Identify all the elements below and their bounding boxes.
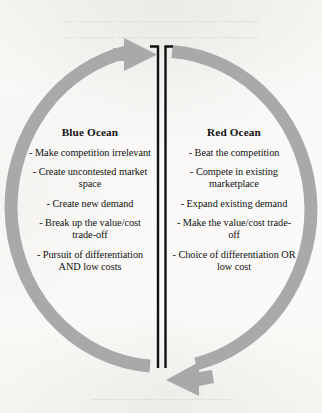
- blue-ocean-column: Blue Ocean - Make competition irrelevant…: [28, 126, 152, 272]
- list-item: - Expand existing demand: [172, 198, 296, 210]
- list-item: - Make the value/cost trade-off: [172, 217, 296, 241]
- list-item: - Break up the value/cost trade-off: [28, 217, 152, 241]
- red-ocean-column: Red Ocean - Beat the competition - Compe…: [172, 126, 296, 272]
- list-item: - Create uncontested market space: [28, 166, 152, 190]
- red-ocean-list: - Beat the competition - Compete in exis…: [172, 147, 296, 273]
- list-item: - Compete in existing marketplace: [172, 166, 296, 190]
- list-item: - Create new demand: [28, 198, 152, 210]
- blue-ocean-list: - Make competition irrelevant - Create u…: [28, 147, 152, 273]
- red-ocean-title: Red Ocean: [172, 126, 296, 139]
- list-item: - Pursuit of differentiation AND low cos…: [28, 249, 152, 273]
- blue-ocean-title: Blue Ocean: [28, 126, 152, 139]
- list-item: - Make competition irrelevant: [28, 147, 152, 159]
- diagram-page: — ——— —— ———— —— ——— — ——— —— ———— —— ——…: [0, 0, 322, 413]
- list-item: - Choice of differentiation OR low cost: [172, 249, 296, 273]
- list-item: - Beat the competition: [172, 147, 296, 159]
